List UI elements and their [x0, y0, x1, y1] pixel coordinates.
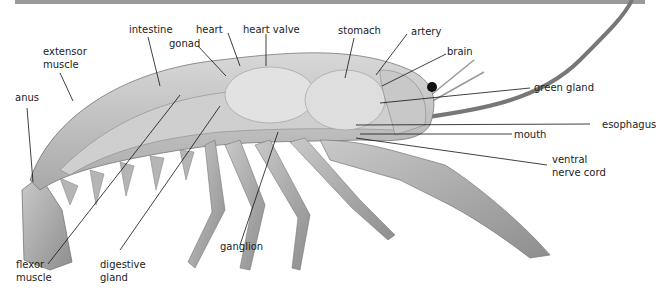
- crayfish-illustration: [0, 0, 659, 294]
- label-ganglion: ganglion: [220, 241, 263, 253]
- label-ventral-nerve-cord-line1: ventral: [552, 154, 587, 166]
- label-ventral-nerve-cord-line2: nerve cord: [552, 167, 606, 179]
- antenna: [420, 0, 632, 118]
- label-extensor-muscle-line1: extensor: [43, 46, 87, 58]
- label-green-gland: green gland: [534, 82, 594, 94]
- label-mouth: mouth: [514, 129, 546, 141]
- label-heart: heart: [196, 24, 223, 36]
- label-anus: anus: [15, 92, 39, 104]
- label-gonad: gonad: [169, 38, 200, 50]
- label-stomach: stomach: [338, 25, 381, 37]
- eye: [427, 82, 437, 92]
- label-digestive-gland-line2: gland: [100, 272, 128, 284]
- label-extensor-muscle-line2: muscle: [43, 59, 79, 71]
- label-heart-valve: heart valve: [243, 24, 300, 36]
- label-brain: brain: [447, 46, 473, 58]
- label-flexor-muscle-line1: flexor: [16, 259, 44, 271]
- label-digestive-gland-line1: digestive: [100, 259, 146, 271]
- label-flexor-muscle-line2: muscle: [16, 272, 52, 284]
- label-intestine: intestine: [129, 24, 173, 36]
- label-artery: artery: [411, 26, 441, 38]
- label-esophagus: esophagus: [602, 119, 656, 131]
